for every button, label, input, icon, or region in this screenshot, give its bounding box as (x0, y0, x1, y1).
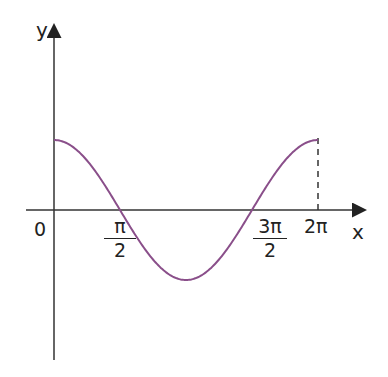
tick-label-pi-over-2: π 2 (104, 217, 136, 260)
tick-label-3pi-over-2: 3π 2 (253, 217, 287, 260)
origin-label: 0 (34, 220, 46, 239)
x-axis-label: x (352, 222, 364, 242)
y-axis-label: y (36, 20, 48, 40)
tick-label-2pi: 2π (304, 217, 328, 236)
chart-canvas (0, 0, 388, 377)
